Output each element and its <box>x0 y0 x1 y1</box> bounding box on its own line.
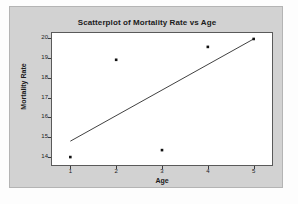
screenshot-root: Scatterplot of Mortality Rate vs Age Mor… <box>0 0 298 204</box>
x-axis-tick-label: 4 <box>201 168 215 175</box>
y-axis-tick-mark <box>48 157 51 158</box>
plot-svg <box>52 33 272 165</box>
data-points-group <box>69 38 255 159</box>
chart-panel: Scatterplot of Mortality Rate vs Age Mor… <box>9 6 283 188</box>
y-axis-tick-label: 16 <box>32 113 48 119</box>
x-axis-title: Age <box>51 177 273 184</box>
data-point-marker <box>115 58 118 61</box>
plot-area <box>51 32 273 166</box>
x-axis-tick-mark <box>208 166 209 169</box>
x-axis-tick-label: 1 <box>63 168 77 175</box>
data-point-marker <box>207 46 210 49</box>
x-axis-tick-mark <box>162 166 163 169</box>
chart-title: Scatterplot of Mortality Rate vs Age <box>10 18 284 27</box>
y-axis-tick-labels: 14151617181920 <box>30 32 48 166</box>
y-axis-tick-label: 17 <box>32 94 48 100</box>
x-axis-tick-mark <box>116 166 117 169</box>
x-axis-tick-label: 2 <box>109 168 123 175</box>
y-axis-title: Mortality Rate <box>20 57 27 117</box>
y-axis-tick-label: 15 <box>32 133 48 139</box>
x-axis-tick-label: 3 <box>155 168 169 175</box>
y-axis-tick-label: 18 <box>32 74 48 80</box>
y-axis-tick-label: 19 <box>32 54 48 60</box>
x-axis-tick-mark <box>254 166 255 169</box>
data-point-marker <box>252 38 255 41</box>
y-axis-tick-label: 14 <box>32 153 48 159</box>
trendline-segment <box>70 39 253 141</box>
y-axis-tick-mark <box>48 78 51 79</box>
y-axis-tick-mark <box>48 58 51 59</box>
data-point-marker <box>161 149 164 152</box>
y-axis-tick-mark <box>48 38 51 39</box>
y-axis-tick-mark <box>48 98 51 99</box>
x-axis-tick-mark <box>70 166 71 169</box>
y-axis-tick-mark <box>48 117 51 118</box>
x-axis-tick-label: 5 <box>247 168 261 175</box>
data-point-marker <box>69 156 72 159</box>
y-axis-tick-label: 20 <box>32 34 48 40</box>
y-axis-tick-mark <box>48 137 51 138</box>
trendline <box>70 39 253 141</box>
